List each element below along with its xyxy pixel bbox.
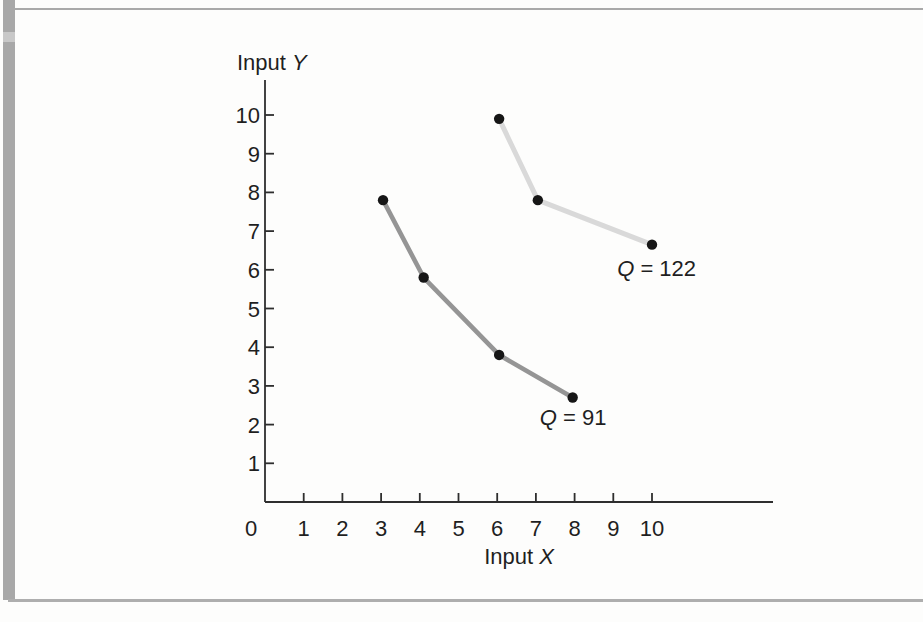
y-tick-label: 9 (248, 142, 260, 167)
y-tick-label: 7 (248, 219, 260, 244)
x-tick-label: 9 (607, 516, 619, 541)
y-tick-label: 3 (248, 374, 260, 399)
x-tick-label: 2 (336, 516, 348, 541)
x-tick-label: 1 (298, 516, 310, 541)
data-point (494, 350, 504, 360)
y-tick-label: 5 (248, 297, 260, 322)
x-tick-label: 7 (530, 516, 542, 541)
y-tick-label: 6 (248, 258, 260, 283)
data-point (418, 272, 428, 282)
data-point (647, 239, 657, 249)
y-tick-label: 1 (248, 451, 260, 476)
y-tick-label: 8 (248, 180, 260, 205)
x-tick-label: 5 (452, 516, 464, 541)
y-tick-label: 10 (236, 103, 260, 128)
isoquant-chart: 12345678910012345678910Q = 91Q = 122Inpu… (0, 0, 923, 622)
series-line (383, 200, 573, 397)
y-axis-title: Input Y (237, 50, 308, 75)
series-label: Q = 122 (617, 256, 696, 281)
y-tick-label: 2 (248, 413, 260, 438)
scanned-figure-page: 12345678910012345678910Q = 91Q = 122Inpu… (0, 0, 923, 622)
y-tick-label: 4 (248, 335, 260, 360)
data-point (378, 195, 388, 205)
x-tick-label: 3 (375, 516, 387, 541)
x-tick-label: 10 (640, 516, 664, 541)
data-point (533, 195, 543, 205)
x-tick-label: 6 (491, 516, 503, 541)
x-tick-label: 0 (245, 516, 257, 541)
bottom-rule (8, 599, 923, 602)
series-line (499, 119, 652, 245)
x-tick-label: 4 (414, 516, 426, 541)
data-point (494, 114, 504, 124)
series-label: Q = 91 (540, 405, 607, 430)
data-point (567, 392, 577, 402)
x-axis-title: Input X (484, 544, 555, 569)
x-tick-label: 8 (568, 516, 580, 541)
